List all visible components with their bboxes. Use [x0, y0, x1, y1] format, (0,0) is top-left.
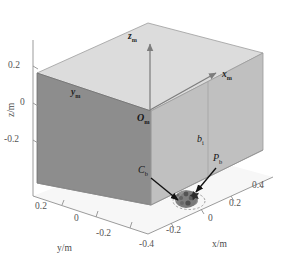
axis-label-xm-sub: m: [227, 74, 232, 81]
centroid-label: Cb: [138, 165, 148, 177]
centroid-label-text: C: [138, 164, 145, 175]
y-tick-0: 0.2: [35, 202, 47, 212]
y-tick-1: 0: [74, 214, 79, 224]
figure-canvas: [0, 0, 285, 264]
y-axis-title: y/m: [57, 244, 72, 254]
axis-label-ym: ym: [71, 88, 80, 99]
z-axis-title: z/m: [7, 103, 17, 117]
axis-label-zm: zm: [128, 32, 137, 43]
axis-label-ym-sub: m: [75, 92, 80, 99]
x-tick-3: 0.2: [229, 199, 241, 209]
z-tick-1: 0: [20, 98, 25, 108]
centroid-label-sub: b: [145, 170, 148, 177]
body-frame-label-sub: i: [202, 139, 204, 146]
origin-label-sub: m: [144, 118, 149, 125]
z-tick-0: 0.2: [8, 61, 20, 71]
x-tick-1: -0.2: [166, 226, 181, 236]
y-tick-2: -0.2: [96, 229, 111, 239]
axis-label-xm: xm: [222, 70, 232, 81]
axis-label-zm-sub: m: [132, 36, 137, 43]
x-tick-0: -0.4: [139, 240, 154, 250]
point-label-sub: b: [219, 158, 222, 165]
x-tick-4: 0.4: [252, 181, 264, 191]
x-tick-2: 0: [208, 214, 213, 224]
origin-label: Om: [137, 113, 150, 125]
body-frame-label: bi: [197, 134, 204, 146]
point-label: Pb: [213, 153, 222, 165]
z-tick-2: -0.2: [4, 135, 19, 145]
x-axis-title: x/m: [212, 240, 227, 250]
